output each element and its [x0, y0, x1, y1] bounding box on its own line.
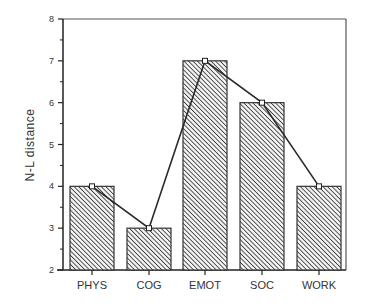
- x-tick-label: SOC: [250, 279, 274, 291]
- bar-emot: [183, 61, 227, 270]
- y-tick-label: 5: [49, 140, 54, 150]
- y-tick-label: 6: [49, 98, 54, 108]
- line-marker: [147, 226, 152, 231]
- x-tick-label: PHYS: [77, 279, 107, 291]
- x-tick-label: WORK: [302, 279, 337, 291]
- y-tick-label: 7: [49, 56, 54, 66]
- x-tick-label: COG: [136, 279, 161, 291]
- y-axis-title: N-L distance: [23, 109, 37, 182]
- bar-phys: [70, 186, 114, 270]
- line-marker: [90, 184, 95, 189]
- y-axis-ticks: 2345678: [49, 14, 63, 275]
- x-tick-label: EMOT: [189, 279, 221, 291]
- line-marker: [317, 184, 322, 189]
- y-tick-label: 4: [49, 181, 54, 191]
- y-tick-label: 3: [49, 223, 54, 233]
- bar-soc: [240, 103, 284, 270]
- bar-cog: [127, 228, 171, 270]
- line-marker: [260, 100, 265, 105]
- x-axis-ticks: PHYSCOGEMOTSOCWORK: [77, 270, 337, 291]
- y-tick-label: 8: [49, 14, 54, 24]
- bars: [70, 61, 341, 270]
- y-tick-label: 2: [49, 265, 54, 275]
- bar-chart: N-L distance 2345678 PHYSCOGEMOTSOCWORK: [0, 0, 366, 306]
- line-marker: [203, 58, 208, 63]
- bar-work: [297, 186, 341, 270]
